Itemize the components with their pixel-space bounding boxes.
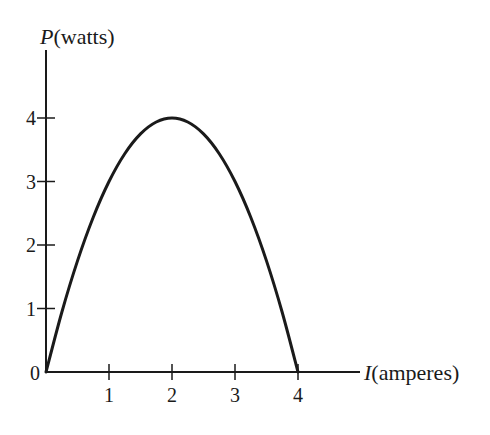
x-tick-label: 4 bbox=[293, 384, 303, 406]
y-axis-variable: P bbox=[39, 24, 53, 49]
x-tick-label: 3 bbox=[230, 384, 240, 406]
y-tick-label: 1 bbox=[26, 298, 36, 320]
x-axis-unit: (amperes) bbox=[371, 360, 459, 385]
power-vs-current-chart: 1234 1234 0 P(watts) I(amperes) bbox=[0, 0, 490, 435]
x-tick-label: 1 bbox=[104, 384, 114, 406]
axes bbox=[45, 50, 360, 373]
x-axis-label: I(amperes) bbox=[363, 360, 459, 385]
x-ticks: 1234 bbox=[104, 364, 303, 406]
y-tick-label: 4 bbox=[26, 107, 36, 129]
power-curve bbox=[46, 118, 298, 372]
y-ticks: 1234 bbox=[26, 107, 55, 320]
y-tick-label: 3 bbox=[26, 171, 36, 193]
x-tick-label: 2 bbox=[167, 384, 177, 406]
origin-label: 0 bbox=[30, 362, 40, 384]
y-tick-label: 2 bbox=[26, 234, 36, 256]
y-axis-label: P(watts) bbox=[39, 24, 115, 49]
y-axis-unit: (watts) bbox=[53, 24, 114, 49]
